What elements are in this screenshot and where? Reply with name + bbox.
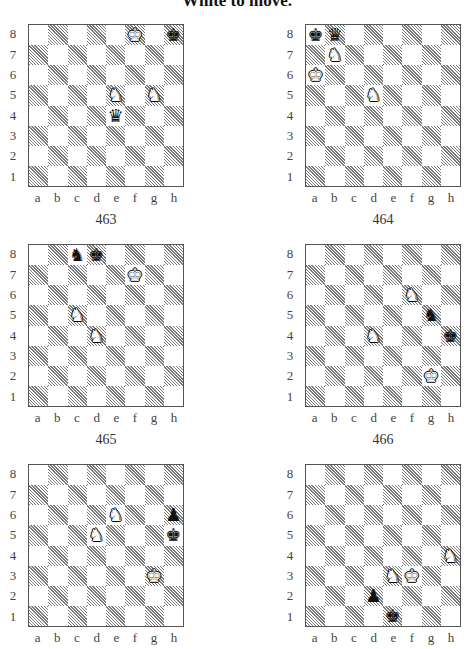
- file-label: e: [390, 410, 396, 426]
- square-c5: [345, 525, 364, 545]
- file-label: g: [428, 630, 435, 646]
- chess-diagram-463: 87654321 ♚♚♞♞♛ abcdefgh 463: [0, 24, 200, 234]
- file-label: h: [171, 630, 178, 646]
- square-f7: [402, 45, 421, 65]
- square-d2: ♟: [364, 586, 383, 606]
- square-b6: [325, 65, 344, 85]
- square-b5: [48, 525, 67, 545]
- square-b6: [325, 505, 344, 525]
- square-c8: [68, 465, 87, 485]
- square-d8: [364, 245, 383, 265]
- rank-label: 5: [283, 87, 297, 103]
- square-d5: [364, 525, 383, 545]
- square-b5: [325, 305, 344, 325]
- diagram-number: 463: [28, 212, 184, 228]
- rank-label: 8: [283, 26, 297, 42]
- square-a1: [306, 606, 325, 626]
- white-knight-icon: ♞: [108, 506, 124, 524]
- rank-label: 4: [283, 108, 297, 124]
- square-h6: [164, 285, 183, 305]
- rank-label: 6: [6, 507, 20, 523]
- chess-diagram-466: 87654321 ♞♞♞♚♚ abcdefgh 466: [277, 244, 474, 454]
- square-a5: [306, 525, 325, 545]
- square-a1: [306, 386, 325, 406]
- file-label: e: [113, 630, 119, 646]
- square-c6: [68, 285, 87, 305]
- square-e2: [383, 586, 402, 606]
- square-a6: [306, 285, 325, 305]
- diagram-number: 464: [305, 212, 461, 228]
- square-d7: [364, 485, 383, 505]
- square-f4: [125, 546, 144, 566]
- white-king-icon: ♚: [127, 266, 143, 284]
- file-label: d: [93, 410, 100, 426]
- square-g8: [145, 25, 164, 45]
- square-f5: [125, 305, 144, 325]
- square-g6: [422, 285, 441, 305]
- rank-label: 3: [6, 348, 20, 364]
- square-e6: [383, 505, 402, 525]
- square-e7: [106, 485, 125, 505]
- square-g5: ♞: [422, 305, 441, 325]
- square-g5: [145, 525, 164, 545]
- square-a4: [29, 326, 48, 346]
- square-b4: [48, 546, 67, 566]
- file-label: b: [54, 410, 61, 426]
- square-e1: [106, 166, 125, 186]
- square-h3: [164, 346, 183, 366]
- square-d6: [87, 285, 106, 305]
- square-h1: [164, 606, 183, 626]
- square-e4: [106, 546, 125, 566]
- square-h7: [441, 45, 460, 65]
- square-b8: [48, 465, 67, 485]
- square-b1: [325, 606, 344, 626]
- square-f8: [125, 465, 144, 485]
- file-label: b: [331, 410, 338, 426]
- square-b4: [48, 326, 67, 346]
- square-g1: [422, 386, 441, 406]
- rank-label: 5: [6, 307, 20, 323]
- square-c3: [345, 566, 364, 586]
- square-f2: [125, 366, 144, 386]
- file-label: f: [133, 190, 137, 206]
- square-f3: [125, 346, 144, 366]
- square-c7: [68, 265, 87, 285]
- square-e7: [383, 265, 402, 285]
- square-c2: [345, 146, 364, 166]
- square-f5: [125, 525, 144, 545]
- square-c1: [345, 166, 364, 186]
- square-g1: [145, 386, 164, 406]
- square-b4: [325, 106, 344, 126]
- white-knight-icon: ♞: [108, 86, 124, 104]
- file-label: b: [331, 190, 338, 206]
- square-a5: [29, 525, 48, 545]
- square-e2: [106, 366, 125, 386]
- square-h3: [164, 566, 183, 586]
- square-f1: [402, 606, 421, 626]
- square-g4: [422, 106, 441, 126]
- rank-label: 2: [6, 148, 20, 164]
- file-label: e: [113, 410, 119, 426]
- square-c7: [345, 485, 364, 505]
- square-d6: [364, 505, 383, 525]
- square-d3: [87, 346, 106, 366]
- square-a3: [306, 126, 325, 146]
- square-d5: [87, 85, 106, 105]
- square-d3: [364, 126, 383, 146]
- white-knight-icon: ♞: [327, 46, 343, 64]
- square-e1: [106, 386, 125, 406]
- square-e5: [106, 305, 125, 325]
- square-d7: [87, 265, 106, 285]
- white-knight-icon: ♞: [385, 567, 401, 585]
- square-a3: [306, 346, 325, 366]
- chess-board: ♞♚♚♞♞: [28, 244, 184, 407]
- file-labels: abcdefgh: [305, 190, 461, 206]
- chess-diagram-464: 87654321 ♚♛♞♚♞ abcdefgh 464: [277, 24, 474, 234]
- square-b4: [325, 546, 344, 566]
- square-b8: [325, 465, 344, 485]
- rank-label: 5: [283, 307, 297, 323]
- square-e7: [383, 485, 402, 505]
- black-king-icon: ♚: [88, 246, 104, 264]
- square-e4: [383, 326, 402, 346]
- square-f6: [402, 65, 421, 85]
